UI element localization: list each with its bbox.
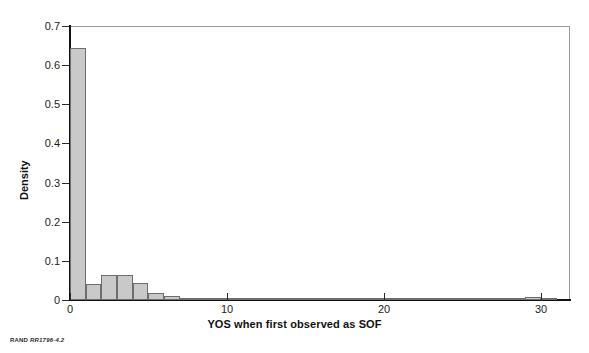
histogram-bar — [462, 298, 478, 300]
x-axis-tick — [70, 293, 71, 301]
x-axis-tick — [384, 293, 385, 301]
y-axis-tick — [62, 104, 69, 105]
histogram-bar — [478, 298, 494, 300]
y-axis-tick-label: 0.6 — [14, 60, 60, 71]
histogram-bar — [494, 298, 510, 300]
histogram-bar — [243, 298, 259, 300]
y-axis-tick — [62, 26, 69, 27]
x-axis-tick — [541, 293, 542, 301]
y-axis-title: Density — [18, 186, 30, 200]
source-credit: RAND RR1796-4.2 — [10, 337, 64, 343]
histogram-bar — [368, 298, 384, 300]
x-axis-tick-label: 30 — [521, 303, 561, 315]
histogram-bar — [227, 298, 243, 300]
y-axis-tick — [62, 300, 69, 301]
histogram-bar — [353, 298, 369, 300]
histogram-bar — [447, 298, 463, 300]
y-axis-tick — [62, 222, 69, 223]
histogram-bar — [290, 298, 306, 300]
y-axis-tick — [62, 65, 69, 66]
y-axis-tick — [62, 261, 69, 262]
histogram-bar — [400, 298, 416, 300]
histogram-bar — [541, 298, 557, 300]
histogram-bar — [321, 298, 337, 300]
y-axis-tick-label: 0.4 — [14, 138, 60, 149]
histogram-bar — [101, 275, 117, 300]
x-axis-tick-label: 0 — [50, 303, 90, 315]
histogram-bar — [196, 298, 212, 300]
y-axis-tick-label: 0.1 — [14, 256, 60, 267]
histogram-bar — [211, 298, 227, 300]
histogram-bar — [117, 275, 133, 300]
histogram-bar — [258, 298, 274, 300]
histogram-bar — [305, 298, 321, 300]
histogram-bar — [70, 48, 86, 300]
histogram-bar — [180, 298, 196, 300]
histogram-bar — [431, 298, 447, 300]
histogram-bar — [510, 298, 526, 300]
histogram-bar — [415, 298, 431, 300]
figure: 00.10.20.30.40.50.60.7 0102030 Density Y… — [0, 0, 589, 353]
x-axis-tick — [227, 293, 228, 301]
y-axis-tick — [62, 143, 69, 144]
histogram-bar — [148, 293, 164, 300]
histogram-bar — [525, 297, 541, 300]
histogram-bar — [274, 298, 290, 300]
histogram-bar — [133, 283, 149, 300]
y-axis-tick — [62, 183, 69, 184]
x-axis-tick-label: 20 — [364, 303, 404, 315]
x-axis-title: YOS when first observed as SOF — [0, 318, 589, 330]
histogram-bar — [86, 284, 102, 300]
source-credit-id: RR1796-4.2 — [30, 337, 64, 343]
x-axis-tick-label: 10 — [207, 303, 247, 315]
histogram-bar — [337, 298, 353, 300]
histogram-bars — [70, 26, 570, 300]
histogram-bar — [384, 298, 400, 300]
histogram-bar — [164, 296, 180, 300]
y-axis-tick-label: 0.5 — [14, 99, 60, 110]
y-axis-tick-label: 0.7 — [14, 21, 60, 32]
y-axis-tick-label: 0.2 — [14, 217, 60, 228]
source-credit-prefix: RAND — [10, 337, 28, 343]
